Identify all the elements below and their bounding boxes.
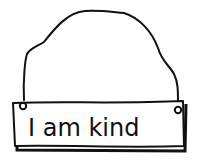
hanging-sign-drawing: I am kind <box>0 0 201 160</box>
hanging-string <box>24 11 178 103</box>
sign-text: I am kind <box>28 114 139 142</box>
